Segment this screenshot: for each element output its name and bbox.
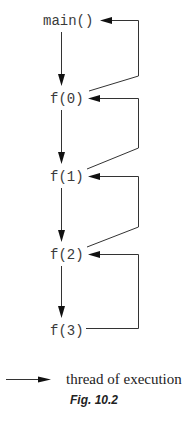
node-f2: f(2) — [50, 247, 84, 263]
recursion-diagram: main() f(0) f(1) f(2) f(3) — [0, 0, 192, 441]
legend: thread of execution — [6, 371, 182, 387]
legend-arrow-icon — [6, 377, 51, 383]
call-arrow-f2-f3 — [58, 266, 65, 318]
return-arrow-f0-main — [89, 17, 139, 91]
node-f1: f(1) — [50, 169, 84, 185]
call-arrow-main-f0 — [58, 32, 65, 86]
legend-label: thread of execution — [66, 371, 182, 387]
call-arrow-f0-f1 — [58, 110, 65, 164]
call-arrow-f1-f2 — [58, 188, 65, 242]
node-f3: f(3) — [50, 323, 84, 339]
figure-caption: Fig. 10.2 — [70, 393, 118, 407]
return-arrow-f3-f2 — [86, 251, 139, 329]
node-main: main() — [43, 13, 93, 29]
return-arrow-f2-f1 — [87, 173, 139, 247]
return-arrow-f1-f0 — [87, 95, 139, 169]
node-f0: f(0) — [50, 91, 84, 107]
